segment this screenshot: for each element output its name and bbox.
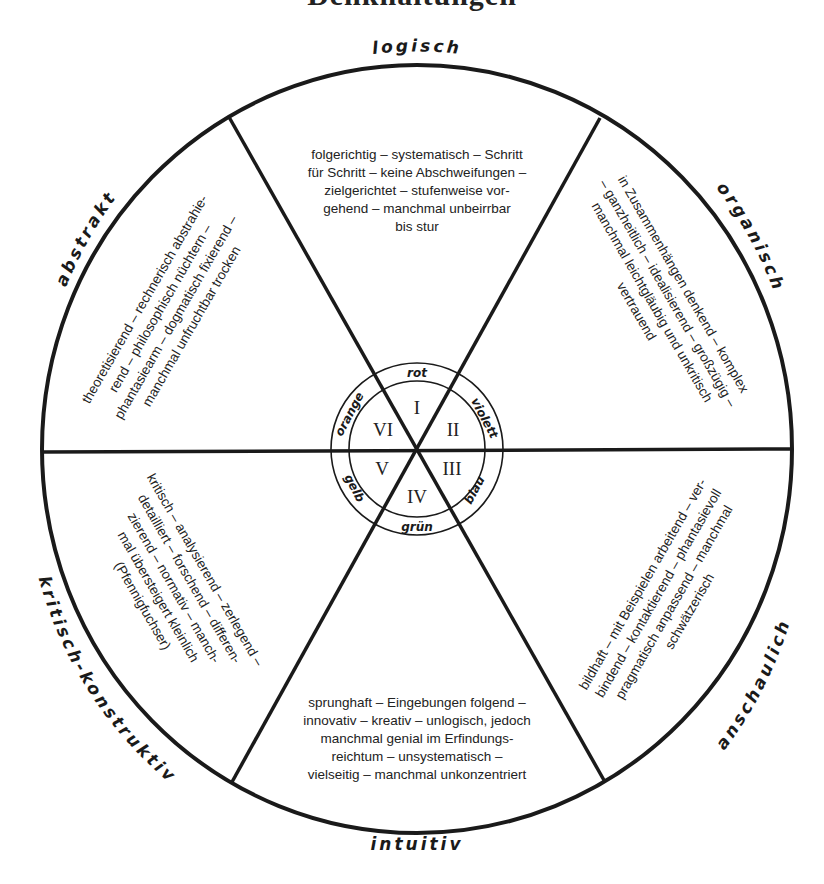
numeral-III: III <box>443 458 462 479</box>
sector-IV-description: sprunghaft – Eingebungen folgend – innov… <box>303 695 530 782</box>
label-anschaulich: anschaulich <box>711 616 794 753</box>
ring-label-gruen: grün <box>401 520 433 534</box>
thinking-styles-wheel: logisch organisch anschaulich intuitiv k… <box>0 0 824 884</box>
ring-label-orange: orange <box>332 390 367 439</box>
numeral-II: II <box>447 419 460 440</box>
svg-text:folgerichtig – systematisch –: folgerichtig – systematisch – Schritt <box>311 147 523 162</box>
label-abstrakt: abstrakt <box>51 187 121 289</box>
svg-text:sprunghaft – Eingebungen folge: sprunghaft – Eingebungen folgend – <box>308 695 526 710</box>
svg-text:manchmal genial im Erfindungs-: manchmal genial im Erfindungs- <box>321 731 514 746</box>
numeral-I: I <box>414 397 420 418</box>
svg-text:bis stur: bis stur <box>395 219 439 234</box>
label-intuitiv: intuitiv <box>370 834 463 854</box>
numeral-V: V <box>375 458 389 479</box>
svg-text:innovativ – kreativ – unlogisc: innovativ – kreativ – unlogisch, jedoch <box>303 713 530 728</box>
sector-III-description: bildhaft – mit Beispielen arbeitend – ve… <box>576 476 756 719</box>
ring-label-violett: violett <box>468 395 502 441</box>
numeral-IV: IV <box>407 486 427 507</box>
sector-VI-description: theoretisierend – rechnerisch abstrahie-… <box>79 192 258 433</box>
ring-label-rot: rot <box>407 366 428 380</box>
ring-label-gelb: gelb <box>341 472 367 505</box>
sector-I-description: folgerichtig – systematisch – Schritt fü… <box>308 147 527 234</box>
numeral-VI: VI <box>373 419 393 440</box>
svg-text:reichtum – unsystematisch –: reichtum – unsystematisch – <box>331 749 503 764</box>
svg-text:vielseitig – manchmal unkonzen: vielseitig – manchmal unkonzentriert <box>308 767 527 782</box>
svg-text:gehend – manchmal unbeirrbar: gehend – manchmal unbeirrbar <box>323 201 511 216</box>
svg-text:für Schritt – keine Abschweifu: für Schritt – keine Abschweifungen – <box>308 165 527 180</box>
label-logisch: logisch <box>371 35 463 58</box>
svg-text:zielgerichtet – stufenweise vo: zielgerichtet – stufenweise vor- <box>324 183 509 198</box>
ring-label-blau: blau <box>461 473 487 506</box>
